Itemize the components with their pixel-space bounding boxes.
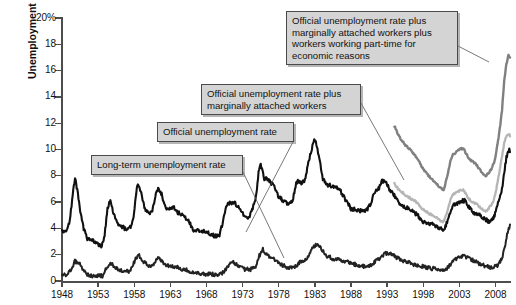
annotation-u5: Official unemployment rate plus marginal… xyxy=(201,84,361,115)
leader-line-u6 xyxy=(458,46,489,62)
annotation-u6: Official unemployment rate plus marginal… xyxy=(286,11,458,65)
series-line-u6 xyxy=(394,55,510,190)
annotation-u3: Official unemployment rate xyxy=(157,122,294,142)
leader-line-u3 xyxy=(246,140,294,232)
annotation-u6-line2: marginally attached workers plus xyxy=(292,27,452,39)
annotation-u5-line1: Official unemployment rate plus xyxy=(207,88,355,100)
unemployment-rate-chart: Unemployment rate 02468101214161820% 194… xyxy=(0,0,516,305)
annotation-longterm: Long-term unemployment rate xyxy=(91,155,243,175)
annotation-longterm-line1: Long-term unemployment rate xyxy=(97,159,237,171)
annotation-u5-line2: marginally attached workers xyxy=(207,100,355,112)
leader-line-u5 xyxy=(361,103,404,180)
series-line-longterm xyxy=(62,224,510,277)
annotation-u3-line1: Official unemployment rate xyxy=(163,126,288,138)
annotation-u6-line4: economic reasons xyxy=(292,50,452,62)
annotation-u6-line3: workers working part-time for xyxy=(292,38,452,50)
annotation-u6-line1: Official unemployment rate plus xyxy=(292,15,452,27)
